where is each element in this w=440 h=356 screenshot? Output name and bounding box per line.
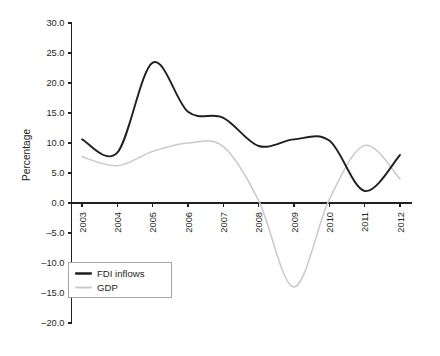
x-tick-label: 2008 [254, 212, 264, 233]
x-tick-label: 2009 [290, 212, 300, 233]
x-tick-label: 2004 [113, 212, 123, 233]
legend-label: FDI inflows [97, 268, 145, 279]
x-tick-label: 2011 [360, 212, 370, 232]
x-tick-label: 2006 [184, 212, 194, 233]
y-tick-label: –15.0 [41, 288, 64, 298]
y-tick-label: –20.0 [41, 318, 64, 328]
x-axis: 2003200420052006200720082009201020112012 [72, 203, 413, 233]
chart-legend: FDI inflowsGDP [68, 262, 171, 297]
x-tick-group: 2003200420052006200720082009201020112012 [78, 203, 406, 233]
y-tick-label: –10.0 [41, 258, 64, 268]
x-tick-label: 2010 [325, 212, 335, 233]
x-tick-label: 2012 [396, 212, 406, 233]
y-tick-label: 10.0 [46, 138, 64, 148]
y-tick-label: 25.0 [46, 48, 64, 58]
legend-label: GDP [97, 282, 118, 293]
series-line-fdi-inflows [82, 62, 400, 191]
y-tick-label: 5.0 [52, 168, 65, 178]
y-axis: 30.025.020.015.010.05.00.0–5.0–10.0–15.0… [41, 18, 71, 328]
y-tick-group: 30.025.020.015.010.05.00.0–5.0–10.0–15.0… [41, 18, 71, 328]
x-tick-label: 2005 [148, 212, 158, 233]
y-tick-label: 20.0 [46, 78, 64, 88]
y-tick-label: –5.0 [46, 228, 64, 238]
y-tick-label: 15.0 [46, 108, 64, 118]
chart-canvas: 30.025.020.015.010.05.00.0–5.0–10.0–15.0… [0, 0, 440, 356]
y-tick-label: 30.0 [46, 18, 64, 28]
line-chart: 30.025.020.015.010.05.00.0–5.0–10.0–15.0… [0, 0, 440, 356]
x-tick-label: 2007 [219, 212, 229, 233]
series-group [82, 62, 400, 287]
y-tick-label: 0.0 [52, 198, 65, 208]
x-tick-label: 2003 [78, 212, 88, 233]
y-axis-label: Percentage [21, 129, 32, 181]
